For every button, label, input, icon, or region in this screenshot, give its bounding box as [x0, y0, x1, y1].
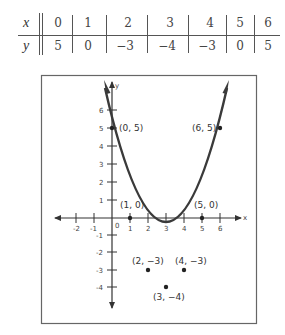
point-label-1-0: (1, 0): [120, 200, 144, 210]
point-label-vertex: (3, −4): [153, 292, 185, 302]
y-tick-label: -2: [96, 249, 103, 257]
point-label-6-5: (6, 5): [192, 123, 216, 133]
point-label-0-5: (0, 5): [119, 123, 143, 133]
y-tick-label: 3: [99, 161, 103, 169]
x-tick-label: 2: [146, 225, 150, 233]
y-tick-label: -4: [96, 284, 104, 292]
x-tick-label: 1: [128, 225, 132, 233]
y-tick-label: 1: [99, 197, 103, 205]
point-label-4-neg3: (4, −3): [175, 256, 207, 266]
x-tick-label: 6: [218, 225, 223, 233]
parabola-graph: -2 -1 0 1 2 3 4 5 6 x y 6 5 4 3 2 1 -1 -…: [0, 0, 285, 335]
point-label-5-0: (5, 0): [194, 200, 218, 210]
y-tick-label: -1: [96, 232, 103, 240]
y-axis-label: y: [115, 82, 119, 90]
graph-frame: [42, 76, 257, 324]
y-tick-label: 4: [99, 143, 104, 151]
curve-arrow-right: [223, 80, 230, 94]
origin-label: 0: [115, 222, 119, 230]
x-tick-label: -2: [73, 225, 80, 233]
y-tick-label: 5: [99, 125, 103, 133]
x-axis-label: x: [243, 214, 247, 222]
x-tick-label: 3: [164, 225, 168, 233]
y-tick-label: 6: [99, 107, 104, 115]
y-tick-label: 2: [99, 179, 103, 187]
point-label-2-neg3: (2, −3): [132, 256, 164, 266]
y-tick-label: -3: [96, 267, 103, 275]
x-tick-label: 5: [200, 225, 204, 233]
x-tick-label: 4: [182, 225, 187, 233]
